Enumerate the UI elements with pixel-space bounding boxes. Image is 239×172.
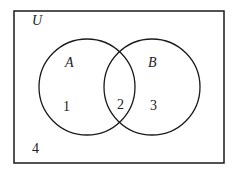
region-b-only-label: 3 bbox=[150, 98, 157, 113]
region-intersection-label: 2 bbox=[117, 97, 124, 112]
set-b-circle bbox=[104, 39, 200, 135]
universe-label: U bbox=[32, 13, 43, 28]
set-a-label: A bbox=[64, 55, 74, 70]
set-a-circle bbox=[39, 39, 135, 135]
venn-diagram: U A B 1 2 3 4 bbox=[0, 0, 239, 172]
region-outside-label: 4 bbox=[32, 141, 39, 156]
region-a-only-label: 1 bbox=[63, 99, 70, 114]
set-b-label: B bbox=[148, 55, 157, 70]
universe-rectangle bbox=[14, 11, 224, 163]
